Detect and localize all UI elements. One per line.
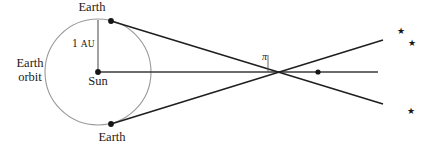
sightline-earth-top-to-star: [111, 21, 383, 104]
earth-bottom-label: Earth: [98, 131, 125, 145]
parallax-diagram: Earth Earth Earth orbit 1 AU Sun π ★★★: [0, 0, 428, 151]
parallax-diagram-canvas: [0, 0, 428, 151]
one-au-label: 1 AU: [72, 37, 95, 49]
star-lower-1-icon: ★: [407, 107, 415, 116]
earth-top-label: Earth: [78, 1, 105, 15]
earth-orbit-label-line2: orbit: [8, 71, 52, 85]
star-upper-1-icon: ★: [397, 27, 405, 36]
one-au-unit: AU: [81, 39, 95, 49]
earth-orbit-label-line1: Earth: [8, 57, 52, 71]
star-convergence-point: [315, 69, 320, 74]
earth-top-point: [108, 18, 114, 24]
earth-bottom-point: [108, 121, 114, 127]
sightline-earth-bottom-to-star: [111, 40, 383, 124]
star-upper-2-icon: ★: [408, 39, 416, 48]
earth-orbit-label: Earth orbit: [8, 57, 52, 84]
sun-label: Sun: [88, 75, 107, 89]
parallax-angle-label: π: [262, 52, 267, 63]
